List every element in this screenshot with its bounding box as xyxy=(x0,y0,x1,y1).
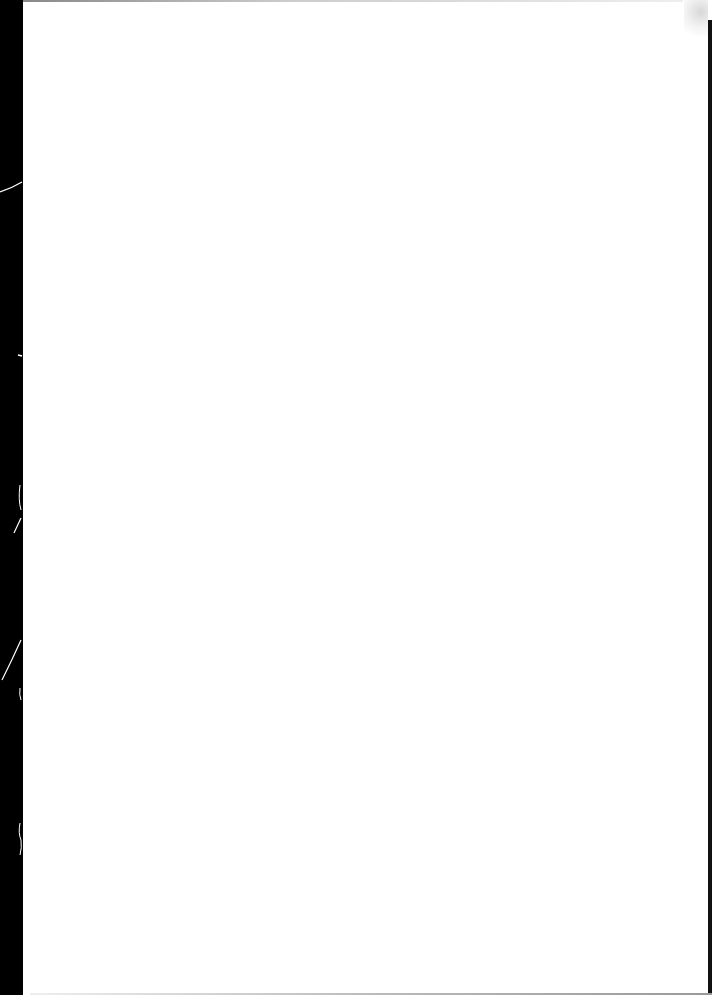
scan-artifact-scratches xyxy=(0,0,30,995)
right-edge-shadow xyxy=(708,20,712,995)
top-edge-shadow xyxy=(23,0,683,2)
page-content xyxy=(40,40,682,955)
scanned-page xyxy=(0,0,712,995)
corner-smudge xyxy=(684,0,708,40)
